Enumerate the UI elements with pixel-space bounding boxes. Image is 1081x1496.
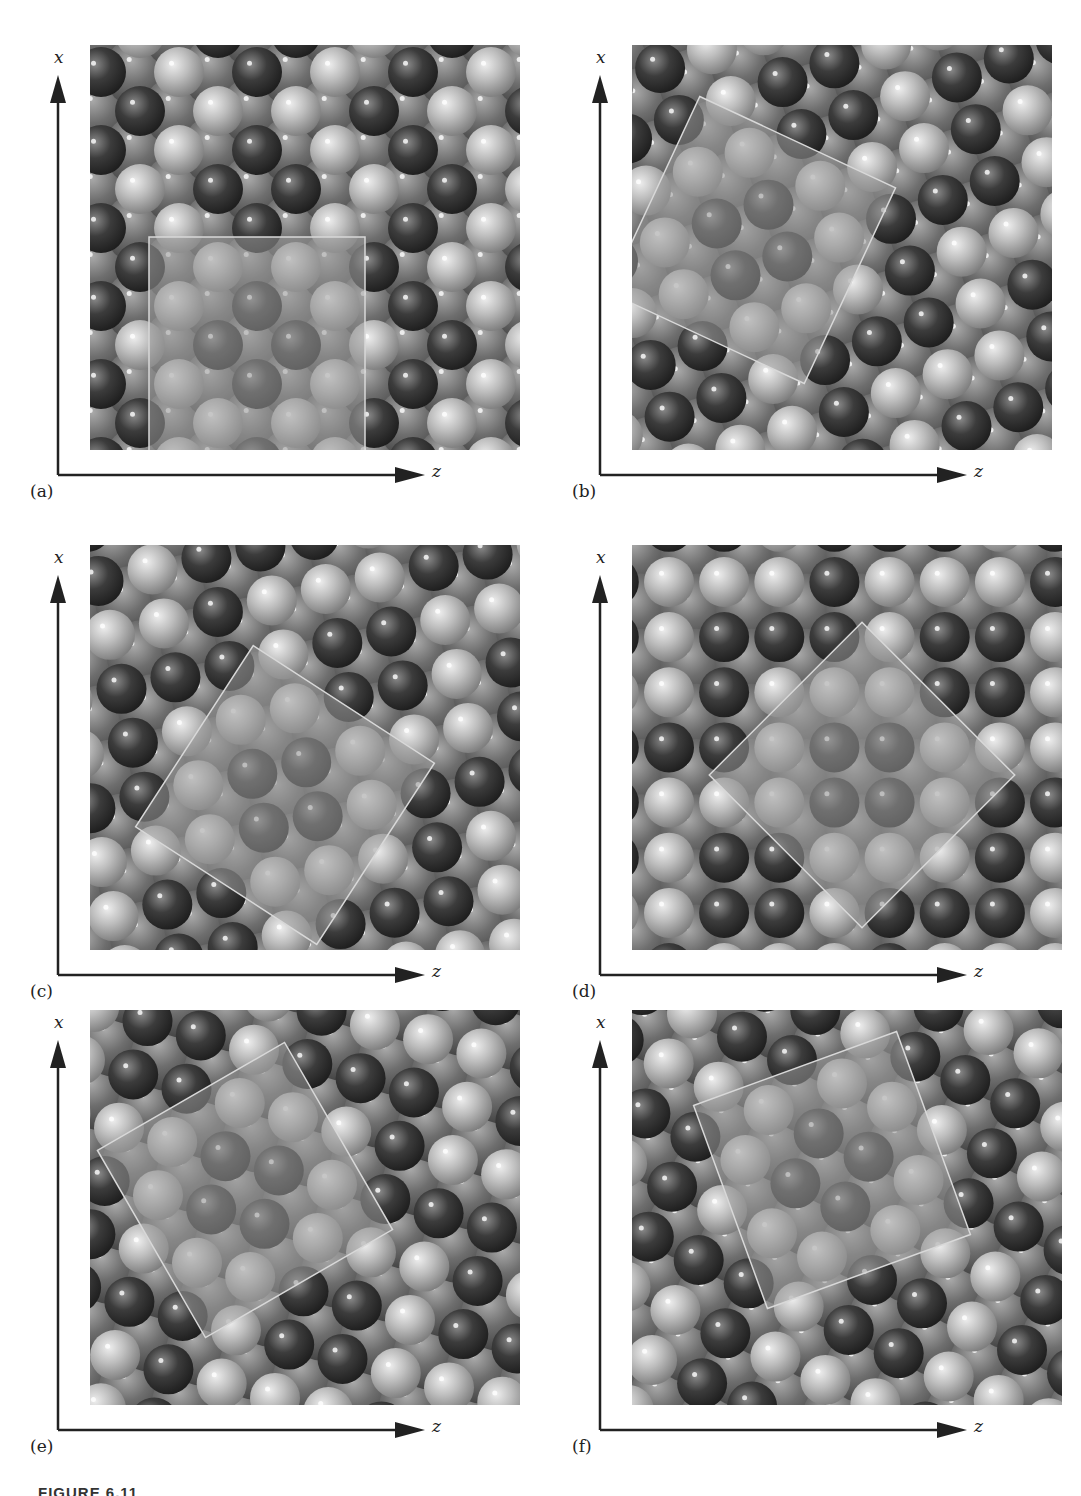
dark-atom bbox=[647, 1162, 697, 1212]
light-atom bbox=[271, 86, 321, 136]
light-atom bbox=[880, 71, 930, 121]
light-atom bbox=[791, 0, 841, 36]
large-atom bbox=[26, 270, 98, 342]
dark-atom bbox=[375, 1121, 425, 1171]
light-atom bbox=[139, 598, 189, 648]
dark-atom bbox=[754, 888, 804, 938]
light-atom bbox=[937, 227, 987, 277]
light-atom bbox=[1030, 722, 1080, 772]
dark-atom bbox=[589, 778, 639, 828]
light-atom bbox=[664, 444, 714, 494]
panel-label: (e) bbox=[30, 1436, 53, 1456]
dark-atom bbox=[677, 1358, 727, 1408]
light-atom bbox=[466, 359, 516, 409]
light-atom bbox=[466, 203, 516, 253]
large-atom bbox=[976, 1401, 1048, 1473]
light-atom bbox=[355, 553, 405, 603]
dark-atom bbox=[644, 502, 694, 552]
dark-atom bbox=[984, 34, 1034, 84]
panel-label: (c) bbox=[30, 981, 53, 1001]
light-atom bbox=[899, 123, 949, 173]
dark-atom bbox=[397, 487, 447, 537]
dark-atom bbox=[76, 437, 126, 487]
light-atom bbox=[371, 1348, 421, 1398]
light-atom bbox=[597, 1138, 647, 1188]
light-atom bbox=[970, 1252, 1020, 1302]
light-atom bbox=[644, 833, 694, 883]
light-atom bbox=[399, 1242, 449, 1292]
dark-atom bbox=[674, 1235, 724, 1285]
light-atom bbox=[478, 865, 528, 915]
light-atom bbox=[1014, 1028, 1064, 1078]
dark-atom bbox=[790, 985, 840, 1035]
atom-lattice bbox=[25, 937, 656, 1482]
light-atom bbox=[754, 557, 804, 607]
dark-atom bbox=[492, 1323, 542, 1373]
light-atom bbox=[197, 1359, 247, 1409]
light-atom bbox=[850, 1378, 900, 1428]
light-atom bbox=[385, 1295, 435, 1345]
dark-atom bbox=[182, 1412, 232, 1462]
light-atom bbox=[85, 610, 135, 660]
light-atom bbox=[193, 86, 243, 136]
dark-atom bbox=[616, 0, 666, 41]
light-atom bbox=[644, 778, 694, 828]
dark-atom bbox=[624, 1212, 674, 1262]
dark-atom bbox=[318, 1334, 368, 1384]
panel-a: xz(a) bbox=[40, 45, 510, 485]
z-axis-label: z bbox=[974, 461, 983, 481]
light-atom bbox=[965, 0, 1015, 32]
dark-atom bbox=[940, 1055, 990, 1105]
light-atom bbox=[403, 1014, 453, 1064]
light-atom bbox=[604, 1385, 654, 1435]
light-atom bbox=[890, 420, 940, 470]
light-atom bbox=[154, 47, 204, 97]
light-atom bbox=[428, 1135, 478, 1185]
light-atom bbox=[350, 1000, 400, 1050]
panel-c: xz(c) bbox=[40, 545, 510, 985]
dark-atom bbox=[994, 1202, 1044, 1252]
dark-atom bbox=[505, 242, 555, 292]
x-axis-label: x bbox=[54, 1012, 64, 1032]
light-atom bbox=[43, 675, 93, 725]
dark-atom bbox=[699, 502, 749, 552]
dark-atom bbox=[176, 1010, 226, 1060]
dark-atom bbox=[932, 52, 982, 102]
light-atom bbox=[100, 945, 150, 995]
dark-atom bbox=[589, 502, 639, 552]
light-atom bbox=[443, 703, 493, 753]
light-atom bbox=[650, 1285, 700, 1335]
dark-atom bbox=[699, 833, 749, 883]
dark-atom bbox=[327, 953, 377, 1003]
light-atom bbox=[800, 1355, 850, 1405]
dark-atom bbox=[370, 888, 420, 938]
light-atom bbox=[54, 729, 104, 779]
dark-atom bbox=[644, 722, 694, 772]
dark-atom bbox=[388, 203, 438, 253]
dark-atom bbox=[129, 1398, 179, 1448]
light-atom bbox=[644, 888, 694, 938]
dark-atom bbox=[635, 43, 685, 93]
dark-atom bbox=[76, 203, 126, 253]
light-atom bbox=[424, 1362, 474, 1412]
dark-atom bbox=[108, 718, 158, 768]
dark-atom bbox=[1020, 1275, 1070, 1325]
dark-atom bbox=[104, 1277, 154, 1327]
dark-atom bbox=[497, 691, 547, 741]
dark-atom bbox=[389, 1068, 439, 1118]
lattice-diagram bbox=[40, 45, 510, 485]
light-atom bbox=[739, 5, 789, 55]
panel-b: xz(b) bbox=[582, 45, 1042, 485]
light-atom bbox=[310, 47, 360, 97]
light-atom bbox=[956, 279, 1006, 329]
light-atom bbox=[466, 437, 516, 487]
dark-atom bbox=[289, 510, 339, 560]
dark-atom bbox=[388, 125, 438, 175]
z-axis-label: z bbox=[432, 461, 441, 481]
light-atom bbox=[750, 1332, 800, 1382]
dark-atom bbox=[602, 114, 652, 164]
light-atom bbox=[1012, 434, 1062, 484]
large-atom bbox=[688, 449, 760, 521]
dark-atom bbox=[589, 943, 639, 993]
dark-atom bbox=[142, 880, 192, 930]
